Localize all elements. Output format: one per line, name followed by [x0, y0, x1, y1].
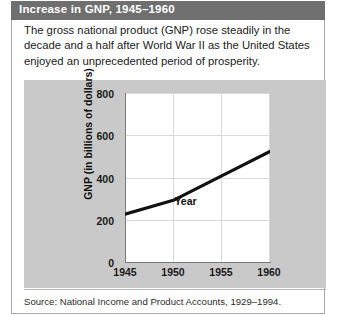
x-tick-1950: 1950: [153, 266, 193, 278]
footer-divider: [24, 289, 326, 290]
figure-container: The gross national product (GNP) rose st…: [11, 1, 325, 314]
y-tick-200: 200: [80, 215, 114, 227]
gnp-line-series: [125, 93, 270, 263]
x-tick-1945: 1945: [105, 266, 145, 278]
x-axis-title: Year: [113, 195, 258, 207]
figure-title: Increase in GNP, 1945–1960: [19, 3, 175, 15]
y-tick-600: 600: [80, 130, 114, 142]
figure-header-bar: Increase in GNP, 1945–1960: [11, 1, 325, 20]
x-tick-1955: 1955: [201, 266, 241, 278]
source-note: Source: National Income and Product Acco…: [24, 296, 314, 307]
figure-caption: The gross national product (GNP) rose st…: [24, 23, 316, 69]
x-tick-1960: 1960: [249, 266, 289, 278]
chart-panel: GNP (in billions of dollars) 800 600 400…: [24, 80, 326, 288]
plot-area: [125, 93, 270, 263]
y-tick-400: 400: [80, 173, 114, 185]
y-tick-800: 800: [80, 88, 114, 100]
